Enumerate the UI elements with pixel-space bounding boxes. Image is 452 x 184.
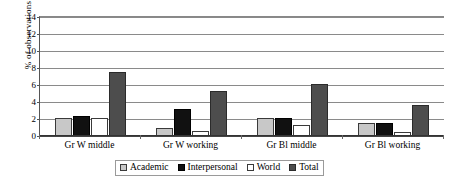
bar-group	[141, 17, 242, 136]
legend-label: Interpersonal	[188, 162, 238, 173]
bar-academic	[257, 118, 274, 136]
legend-swatch-interpersonal	[178, 164, 185, 171]
bar-group	[242, 17, 343, 136]
y-tick-label: 4	[32, 98, 37, 107]
bar-total	[210, 91, 227, 136]
bar-interpersonal	[73, 116, 90, 136]
bar-interpersonal	[174, 109, 191, 136]
legend-label: Academic	[130, 162, 169, 173]
bar-group	[40, 17, 141, 136]
bar-total	[311, 84, 328, 136]
legend-item: World	[247, 162, 281, 173]
y-tick-label: 2	[32, 115, 37, 124]
y-tick-label: 8	[32, 64, 37, 73]
y-tick-label: 6	[32, 81, 37, 90]
x-tick-mark	[443, 135, 444, 139]
legend-item: Total	[289, 162, 318, 173]
y-tick-label: 0	[32, 132, 37, 141]
x-axis-labels: Gr W middleGr W workingGr Bl middleGr Bl…	[39, 139, 443, 151]
legend-swatch-academic	[120, 164, 127, 171]
bar-world	[91, 118, 108, 136]
legend: AcademicInterpersonalWorldTotal	[115, 160, 324, 176]
x-axis-label: Gr W working	[140, 139, 241, 151]
bar-academic	[55, 118, 72, 136]
y-tick-label: 10	[27, 47, 36, 56]
bars-layer	[40, 17, 444, 136]
legend-swatch-world	[247, 164, 254, 171]
legend-label: Total	[299, 162, 318, 173]
bar-total	[109, 72, 126, 136]
legend-swatch-total	[289, 164, 296, 171]
y-tick-label: 14	[27, 13, 36, 22]
x-axis-label: Gr Bl middle	[241, 139, 342, 151]
legend-item: Academic	[120, 162, 169, 173]
legend-label: World	[257, 162, 281, 173]
bar-interpersonal	[275, 118, 292, 136]
x-axis-label: Gr Bl working	[342, 139, 443, 151]
bar-chart: % of observations 02468101214 Gr W middl…	[0, 0, 452, 184]
legend-item: Interpersonal	[178, 162, 238, 173]
plot-area: 02468101214	[39, 16, 444, 136]
x-axis-label: Gr W middle	[39, 139, 140, 151]
y-tick-label: 12	[27, 30, 36, 39]
bar-group	[343, 17, 444, 136]
bar-total	[412, 105, 429, 136]
